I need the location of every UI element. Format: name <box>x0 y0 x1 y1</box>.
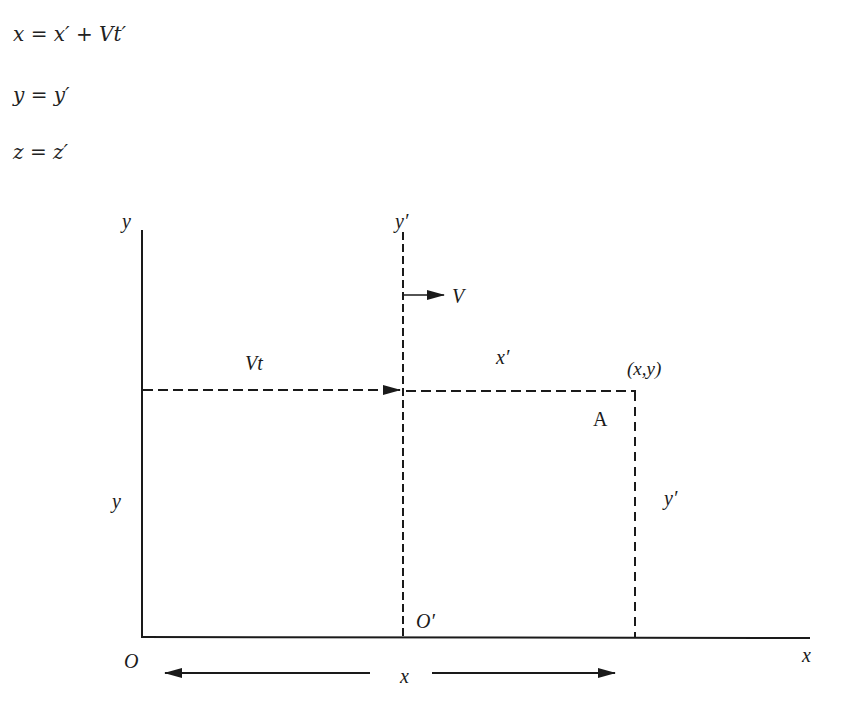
x-axis-line <box>142 637 810 638</box>
y-axis-label: y <box>120 210 131 233</box>
velocity-label: V <box>452 285 467 307</box>
y-left-label: y <box>110 490 121 513</box>
point-a-label: A <box>593 408 608 430</box>
point-coords-label: (x,y) <box>627 358 661 380</box>
y-prime-axis-label: y′ <box>393 210 409 233</box>
galilean-transform-diagram: y y′ V Vt x′ (x,y) A y y′ O′ O x x <box>0 0 846 702</box>
x-axis-label: x <box>801 644 811 666</box>
x-distance-label: x <box>399 665 409 687</box>
origin-label: O <box>124 650 138 672</box>
y-prime-right-label: y′ <box>662 487 678 510</box>
vt-label: Vt <box>245 352 263 374</box>
origin-prime-label: O′ <box>416 610 435 632</box>
x-prime-label: x′ <box>495 346 510 368</box>
